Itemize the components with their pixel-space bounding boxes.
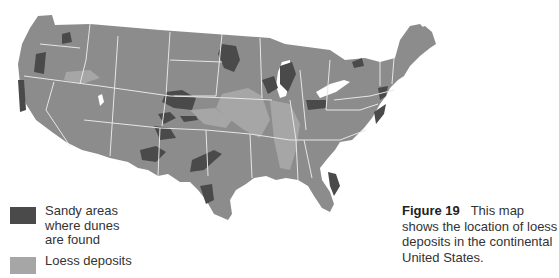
legend-label-loess: Loess deposits (45, 254, 135, 269)
legend-item-loess: Loess deposits (10, 254, 135, 274)
sandy-swatch (10, 207, 36, 224)
legend-label-sandy: Sandy areas where dunes are found (45, 204, 135, 248)
figure-label: Figure 19 (402, 203, 460, 218)
loess-swatch (10, 257, 36, 274)
legend-item-sandy: Sandy areas where dunes are found (10, 204, 135, 248)
map-legend: Sandy areas where dunes are found Loess … (10, 204, 135, 278)
figure-caption: Figure 19 This map shows the location of… (402, 203, 559, 265)
